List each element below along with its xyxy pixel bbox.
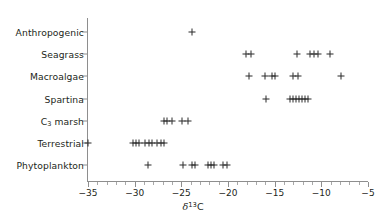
x-tick-minor: [144, 182, 145, 185]
data-point: [295, 73, 302, 80]
x-tick-major: [88, 182, 89, 187]
x-tick-major: [181, 182, 182, 187]
data-point: [144, 162, 151, 169]
data-point: [192, 162, 199, 169]
x-tick-minor: [200, 182, 201, 185]
element-symbol: C: [197, 201, 204, 212]
data-point: [248, 51, 255, 58]
plot-area: [88, 18, 368, 181]
data-point: [305, 95, 312, 102]
data-point: [211, 162, 218, 169]
category-label-spartina: Spartina: [45, 93, 84, 104]
x-tick-major: [368, 182, 369, 187]
x-tick-major: [228, 182, 229, 187]
data-point: [263, 95, 270, 102]
x-tick-minor: [116, 182, 117, 185]
x-tick-label: −25: [172, 188, 191, 198]
x-tick-minor: [284, 182, 285, 185]
x-tick-minor: [265, 182, 266, 185]
x-tick-minor: [107, 182, 108, 185]
data-point: [169, 117, 176, 124]
data-point: [224, 162, 231, 169]
x-tick-minor: [312, 182, 313, 185]
category-label-macroalgae: Macroalgae: [30, 71, 84, 82]
data-point: [271, 73, 278, 80]
data-point: [160, 140, 167, 147]
x-tick-label: −30: [125, 188, 144, 198]
data-point: [188, 29, 195, 36]
data-point: [245, 73, 252, 80]
x-tick-minor: [172, 182, 173, 185]
x-tick-label: −35: [79, 188, 98, 198]
x-tick-minor: [191, 182, 192, 185]
x-tick-minor: [340, 182, 341, 185]
x-tick-minor: [125, 182, 126, 185]
x-tick-minor: [331, 182, 332, 185]
x-tick-minor: [256, 182, 257, 185]
data-point: [314, 51, 321, 58]
data-point: [184, 117, 191, 124]
scatter-figure: AnthropogenicSeagrassMacroalgaeSpartinaC…: [0, 0, 386, 224]
category-label-anthropogenic: Anthropogenic: [16, 27, 84, 38]
data-point: [180, 162, 187, 169]
data-point: [85, 140, 92, 147]
x-tick-label: −20: [219, 188, 238, 198]
x-tick-major: [275, 182, 276, 187]
x-tick-minor: [209, 182, 210, 185]
x-tick-minor: [237, 182, 238, 185]
data-point: [294, 51, 301, 58]
x-tick-minor: [97, 182, 98, 185]
x-tick-major: [321, 182, 322, 187]
category-label-seagrass: Seagrass: [41, 49, 84, 60]
x-tick-label: −15: [265, 188, 284, 198]
x-tick-major: [135, 182, 136, 187]
data-point: [326, 51, 333, 58]
x-tick-minor: [303, 182, 304, 185]
x-tick-minor: [247, 182, 248, 185]
x-tick-minor: [219, 182, 220, 185]
x-tick-label: −10: [312, 188, 331, 198]
x-tick-label: −5: [361, 188, 374, 198]
x-tick-minor: [359, 182, 360, 185]
category-label-c3-marsh: C3 marsh: [41, 115, 84, 126]
isotope-mass-number: 13: [188, 201, 197, 209]
category-label-phytoplankton: Phytoplankton: [16, 160, 84, 171]
data-point: [337, 73, 344, 80]
x-tick-minor: [163, 182, 164, 185]
category-label-terrestrial: Terrestrial: [37, 138, 84, 149]
x-axis-title: δ13C: [0, 201, 386, 212]
x-tick-minor: [153, 182, 154, 185]
x-tick-minor: [349, 182, 350, 185]
x-tick-minor: [293, 182, 294, 185]
